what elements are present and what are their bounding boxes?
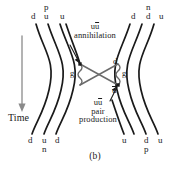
- top-left-quark-label-1: d: [31, 12, 36, 21]
- bottom-left-quark-label-1: d: [28, 136, 33, 145]
- annihilation-uubar-symbol: uu: [91, 22, 100, 31]
- top-left-quark-label-2: u: [44, 12, 49, 21]
- pair-production-overbar: [98, 98, 102, 99]
- pair-production-annotation: uu pair production: [79, 98, 117, 124]
- annihilation-word: annihilation: [74, 31, 116, 40]
- bottom-right-hadron-label-p: p: [144, 145, 149, 154]
- bottom-left-hadron-label-n: n: [42, 145, 47, 154]
- pair-production-uubar-symbol: uu: [94, 98, 103, 107]
- top-right-quark-label-3: u: [159, 12, 164, 21]
- annihilation-ubar-char: u: [95, 21, 99, 31]
- gluon-label-right: g: [122, 69, 126, 78]
- annihilation-annotation: uu annihilation: [74, 22, 116, 39]
- pair-production-ubar-char-wrap: u: [98, 98, 102, 107]
- pair-production-ubar-char: u: [98, 97, 102, 107]
- top-left-quark-label-3: u: [60, 12, 65, 21]
- figure-caption: (b): [89, 152, 100, 162]
- time-axis-arrowhead: [18, 104, 25, 113]
- time-axis-label: Time: [8, 113, 29, 123]
- top-right-quark-label-1: d: [131, 12, 136, 21]
- quark-line-right-2: [127, 24, 146, 134]
- bottom-left-quark-label-3: d: [55, 136, 60, 145]
- pair-production-word-production: production: [79, 115, 117, 124]
- exchange-ubar-overbar: [112, 86, 116, 87]
- gluon-line-left: [78, 64, 82, 85]
- exchange-quark-label-ubar: u: [112, 86, 117, 95]
- bottom-right-quark-label-1: u: [122, 136, 127, 145]
- exchange-quark-label-d: d: [113, 57, 118, 66]
- top-right-quark-label-2: d: [146, 12, 151, 21]
- quark-line-left-2: [44, 24, 63, 134]
- feynman-diagram-figure: d p u u d n d u uu annihilation g g d u …: [0, 0, 190, 169]
- gluon-line-right: [116, 64, 120, 85]
- quark-line-right-1: [139, 24, 158, 134]
- quark-line-left-1: [32, 24, 51, 134]
- annihilation-ubar-char-wrap: u: [95, 22, 99, 31]
- annihilation-overbar: [95, 22, 99, 23]
- gluon-label-left: g: [70, 69, 74, 78]
- bottom-right-quark-label-3: u: [158, 136, 163, 145]
- exchange-ubar-char: u: [112, 85, 117, 95]
